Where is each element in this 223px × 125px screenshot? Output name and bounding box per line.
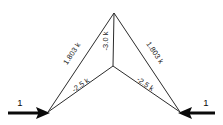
loads-group: 1 1 — [8, 97, 215, 119]
member-right-diagonal — [114, 13, 180, 112]
right-load-label: 1 — [203, 97, 208, 108]
member-left-diagonal — [48, 13, 114, 112]
left-load-arrow — [8, 107, 50, 119]
truss-diagram-canvas: 1.803 k -3.0 k 1.803 k -2.5 k -2.5 k 1 1 — [0, 0, 223, 125]
label-right-diagonal: 1.803 k — [144, 40, 165, 66]
label-left-bottom-chord: -2.5 k — [70, 76, 91, 94]
label-right-bottom-chord: -2.5 k — [135, 75, 156, 93]
label-vertical: -3.0 k — [101, 31, 110, 50]
right-load-arrow — [178, 107, 215, 119]
label-left-diagonal: 1.803 k — [61, 41, 82, 67]
truss-force-diagram: 1.803 k -3.0 k 1.803 k -2.5 k -2.5 k 1 1 — [0, 0, 223, 125]
left-load-label: 1 — [17, 97, 22, 108]
member-vertical — [113, 13, 114, 66]
